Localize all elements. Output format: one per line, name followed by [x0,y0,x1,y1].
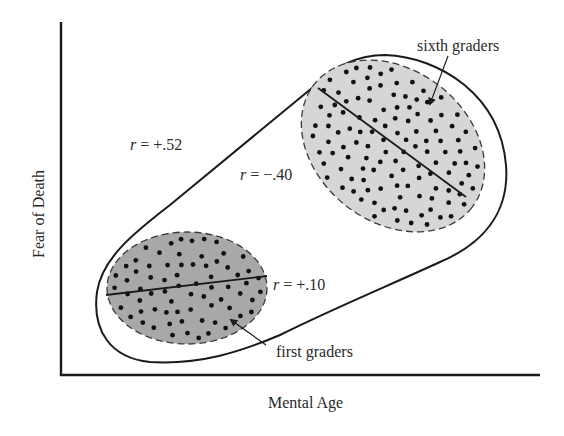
data-point [395,131,400,136]
data-point [404,137,409,142]
data-point [326,124,331,129]
r-symbol: r [273,276,280,293]
diagram-canvas: sixth graders first graders r = +.52 r =… [0,0,564,436]
r-value: = +.52 [140,136,182,153]
r-symbol: r [130,136,137,153]
data-point [185,331,190,336]
data-point [364,156,369,161]
data-point [417,176,422,181]
data-point [462,202,467,207]
data-point [219,297,224,302]
data-point [214,240,219,245]
data-point [359,197,364,202]
data-point [392,206,397,211]
data-point [347,126,352,131]
data-point [175,273,180,278]
data-point [458,149,463,154]
data-point [170,333,175,338]
r-value: = −.40 [250,166,292,183]
data-point [144,245,149,250]
data-point [191,262,196,267]
data-point [128,315,133,320]
data-point [365,75,370,80]
data-point [409,221,414,226]
data-point [367,86,372,91]
data-point [406,119,411,124]
data-point [438,215,443,220]
data-point [124,264,129,269]
data-point [372,214,377,219]
data-point [339,167,344,172]
data-point [452,161,457,166]
data-point [391,92,396,97]
r-value: = +.10 [283,276,325,293]
data-point [424,139,429,144]
first-graders-cluster [106,232,267,344]
data-point [313,123,318,128]
data-point [149,291,154,296]
data-point [221,251,226,256]
data-point [317,150,322,155]
data-point [373,118,378,123]
data-point [344,99,349,104]
first-graders-label: first graders [276,343,353,361]
data-point [393,159,398,164]
data-point [410,80,415,85]
data-point [341,145,346,150]
data-point [209,303,214,308]
data-point [450,124,455,129]
data-point [434,129,439,134]
data-point [430,196,435,201]
data-point [326,139,331,144]
data-point [463,129,468,134]
data-point [349,177,354,182]
data-point [137,298,142,303]
data-point [201,294,206,299]
sixth-graders-label: sixth graders [417,37,499,55]
data-point [134,269,139,274]
data-point [180,319,185,324]
data-point [140,320,145,325]
data-point [241,254,246,259]
data-point [415,112,420,117]
sixth-graders-cluster [267,25,518,268]
data-point [378,186,383,191]
data-point [351,80,356,85]
data-point [238,291,243,296]
data-point [177,252,182,257]
data-point [346,155,351,160]
data-point [225,265,230,270]
data-point [311,134,316,139]
data-point [446,188,451,193]
data-point [361,178,366,183]
data-point [403,94,408,99]
data-point [113,273,118,278]
data-point [223,326,228,331]
data-point [200,318,205,323]
r-symbol: r [240,166,247,183]
data-point [153,307,158,312]
data-point [206,331,211,336]
data-point [389,67,394,72]
data-point [244,281,249,286]
data-point [473,146,478,151]
data-point [167,322,172,327]
data-point [443,150,448,155]
data-point [139,309,144,314]
overall-correlation: r = +.52 [130,136,182,153]
data-point [425,222,430,227]
data-point [196,336,201,341]
data-point [209,285,214,290]
data-point [414,97,419,102]
data-point [393,116,398,121]
data-point [417,194,422,199]
data-point [327,113,332,118]
data-point [378,160,383,165]
data-point [378,71,383,76]
data-point [321,161,326,166]
data-point [447,170,452,175]
data-point [371,168,376,173]
data-point [235,273,240,278]
data-point [456,138,461,143]
data-point [318,104,323,109]
